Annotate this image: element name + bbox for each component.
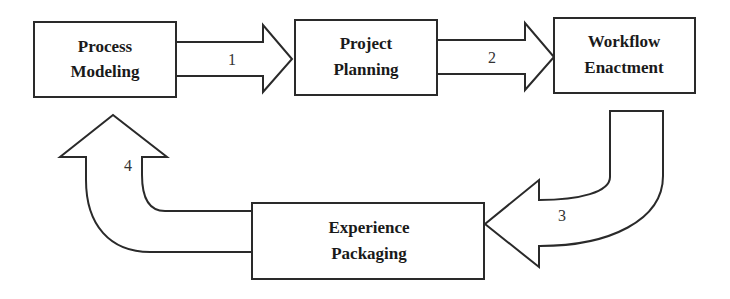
arrow-4: 4 xyxy=(60,115,252,252)
process-cycle-diagram: 1 2 3 4 Process Modeling Project Plannin… xyxy=(0,0,730,299)
node-project-planning-line1: Project xyxy=(340,34,393,53)
node-process-modeling-line2: Modeling xyxy=(71,62,140,81)
arrow-2: 2 xyxy=(437,23,554,90)
node-project-planning: Project Planning xyxy=(295,20,437,95)
node-process-modeling-line1: Process xyxy=(78,37,133,56)
arrow-1: 1 xyxy=(176,25,292,92)
arrow-3-label: 3 xyxy=(558,207,566,224)
node-experience-packaging: Experience Packaging xyxy=(252,203,484,279)
node-workflow-enactment-line1: Workflow xyxy=(588,32,661,51)
node-workflow-enactment-line2: Enactment xyxy=(584,58,664,77)
node-experience-packaging-line1: Experience xyxy=(328,218,410,237)
node-workflow-enactment: Workflow Enactment xyxy=(554,18,695,93)
arrow-3: 3 xyxy=(485,111,663,267)
node-project-planning-line2: Planning xyxy=(333,60,399,79)
arrow-1-label: 1 xyxy=(228,51,236,68)
node-experience-packaging-line2: Packaging xyxy=(331,244,407,263)
arrow-4-label: 4 xyxy=(124,157,132,174)
node-process-modeling: Process Modeling xyxy=(34,22,176,97)
arrow-2-label: 2 xyxy=(488,49,496,66)
